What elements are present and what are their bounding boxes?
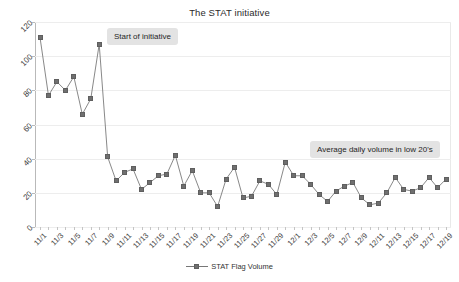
data-point-marker (156, 173, 161, 178)
data-point-marker (444, 177, 449, 182)
data-point-marker (300, 173, 305, 178)
annotation-average-daily-volume: Average daily volume in low 20's (310, 141, 440, 158)
x-tick-mark (370, 227, 371, 230)
data-point-marker (376, 201, 381, 206)
data-point-marker (317, 192, 322, 197)
y-tick-label: 40 (22, 155, 35, 168)
data-point-marker (283, 160, 288, 165)
x-tick-mark (412, 227, 413, 230)
x-tick-mark (218, 227, 219, 230)
gridline (35, 159, 451, 160)
x-tick-mark (184, 227, 185, 230)
x-tick-mark (336, 227, 337, 230)
data-point-marker (97, 42, 102, 47)
data-point-marker (232, 165, 237, 170)
gridline (35, 22, 451, 23)
x-tick-mark (387, 227, 388, 230)
data-point-marker (257, 178, 262, 183)
data-point-marker (334, 189, 339, 194)
data-point-marker (401, 187, 406, 192)
y-tick-mark (32, 227, 35, 228)
data-point-marker (215, 204, 220, 209)
gridline (35, 90, 451, 91)
x-tick-mark (404, 227, 405, 230)
data-point-marker (181, 184, 186, 189)
x-tick-mark (361, 227, 362, 230)
data-point-marker (308, 182, 313, 187)
x-tick-mark (243, 227, 244, 230)
data-point-marker (410, 189, 415, 194)
x-tick-mark (65, 227, 66, 230)
x-tick-mark (395, 227, 396, 230)
x-tick-mark (99, 227, 100, 230)
x-tick-mark (311, 227, 312, 230)
data-point-marker (435, 185, 440, 190)
x-tick-mark (175, 227, 176, 230)
data-point-marker (173, 153, 178, 158)
x-tick-mark (91, 227, 92, 230)
x-tick-mark (167, 227, 168, 230)
data-point-marker (291, 173, 296, 178)
y-tick-label: 60 (22, 121, 35, 134)
data-point-marker (131, 166, 136, 171)
data-point-marker (114, 178, 119, 183)
data-point-marker (139, 187, 144, 192)
x-tick-mark (201, 227, 202, 230)
data-point-marker (325, 199, 330, 204)
legend-label: STAT Flag Volume (211, 262, 273, 271)
x-tick-mark (57, 227, 58, 230)
x-tick-mark (226, 227, 227, 230)
y-tick-mark (32, 22, 35, 23)
x-tick-mark (378, 227, 379, 230)
data-point-marker (224, 177, 229, 182)
x-tick-mark (82, 227, 83, 230)
x-tick-mark (74, 227, 75, 230)
data-point-marker (367, 202, 372, 207)
data-point-marker (71, 74, 76, 79)
gridline (35, 56, 451, 57)
y-tick-mark (32, 193, 35, 194)
y-tick-mark (32, 159, 35, 160)
x-tick-mark (48, 227, 49, 230)
x-tick-mark (446, 227, 447, 230)
x-tick-mark (302, 227, 303, 230)
y-tick-mark (32, 125, 35, 126)
data-point-marker (342, 184, 347, 189)
chart-container: The STAT initiative 020406080100120 11/1… (0, 0, 459, 282)
data-point-marker (350, 180, 355, 185)
x-tick-mark (108, 227, 109, 230)
x-tick-mark (328, 227, 329, 230)
x-tick-mark (429, 227, 430, 230)
data-point-marker (88, 96, 93, 101)
x-tick-mark (319, 227, 320, 230)
data-point-marker (241, 195, 246, 200)
x-tick-mark (294, 227, 295, 230)
data-point-marker (207, 190, 212, 195)
y-tick-label: 100 (18, 52, 34, 68)
y-tick-label: 120 (18, 18, 34, 34)
x-tick-mark (268, 227, 269, 230)
data-point-marker (164, 172, 169, 177)
x-tick-mark (192, 227, 193, 230)
x-tick-mark (150, 227, 151, 230)
y-tick-label: 20 (22, 189, 35, 202)
x-tick-mark (235, 227, 236, 230)
data-point-marker (147, 180, 152, 185)
data-point-marker (38, 35, 43, 40)
x-tick-mark (421, 227, 422, 230)
x-tick-mark (209, 227, 210, 230)
data-point-marker (359, 195, 364, 200)
x-tick-mark (142, 227, 143, 230)
data-point-marker (198, 190, 203, 195)
data-point-marker (105, 154, 110, 159)
chart-legend: STAT Flag Volume (0, 262, 459, 271)
data-point-marker (63, 88, 68, 93)
x-tick-mark (285, 227, 286, 230)
y-tick-mark (32, 56, 35, 57)
x-tick-mark (251, 227, 252, 230)
data-point-marker (393, 175, 398, 180)
x-tick-mark (277, 227, 278, 230)
data-point-marker (80, 112, 85, 117)
data-point-marker (190, 168, 195, 173)
x-tick-mark (116, 227, 117, 230)
